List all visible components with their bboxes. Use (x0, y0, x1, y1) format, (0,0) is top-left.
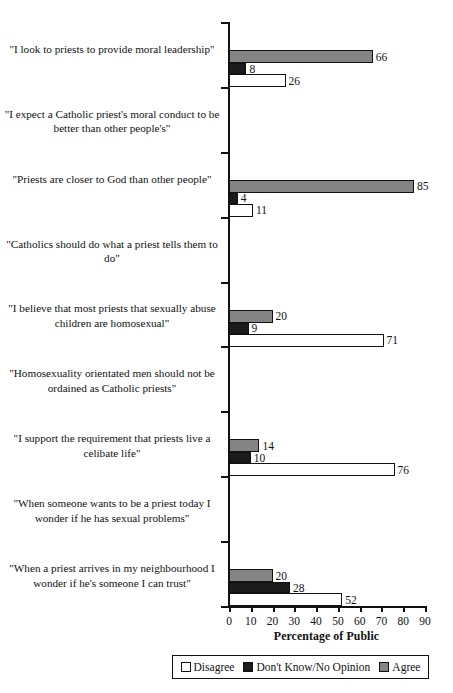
x-axis-tick-label: 90 (413, 614, 437, 628)
chart-legend: Disagree Don't Know/No Opinion Agree (172, 655, 429, 679)
x-axis-tick-label: 60 (348, 614, 372, 628)
x-axis-tick-label: 70 (369, 614, 393, 628)
bar-group: "When someone wants to be a priest today… (0, 476, 453, 541)
bar-value-label: 8 (249, 63, 255, 75)
x-axis-tick (360, 606, 362, 612)
x-axis-line (228, 606, 425, 608)
category-label: "When someone wants to be a priest today… (4, 496, 220, 525)
bar-agree (229, 50, 373, 63)
bar-value-label: 26 (289, 75, 301, 87)
bar-group: "I support the requirement that priests … (0, 411, 453, 476)
x-axis-tick-label: 80 (391, 614, 415, 628)
x-axis-title: Percentage of Public (228, 629, 425, 644)
category-label: "I look to priests to provide moral lead… (4, 42, 220, 57)
legend-label-agree: Agree (392, 661, 420, 673)
bar-group: "I believe that most priests that sexual… (0, 282, 453, 347)
category-label: "Homosexuality orientated men should not… (4, 366, 220, 395)
x-axis-tick-label: 10 (239, 614, 263, 628)
y-axis-tick (221, 606, 229, 608)
plot-area: "I look to priests to provide moral lead… (0, 0, 453, 612)
category-label: "I support the requirement that priests … (4, 431, 220, 460)
bar-value-label: 66 (376, 51, 388, 63)
legend-item-disagree: Disagree (181, 661, 235, 673)
legend-label-disagree: Disagree (194, 661, 235, 673)
x-axis-tick-label: 50 (326, 614, 350, 628)
x-axis-tick (403, 606, 405, 612)
bar-group: "Priests are closer to God than other pe… (0, 152, 453, 217)
x-axis-tick-label: 0 (217, 614, 241, 628)
bar-group: "When a priest arrives in my neighbourho… (0, 541, 453, 606)
x-axis-tick-label: 30 (282, 614, 306, 628)
category-label: "I expect a Catholic priest's moral cond… (4, 107, 220, 136)
category-label: "When a priest arrives in my neighbourho… (4, 561, 220, 590)
legend-swatch-agree-icon (379, 662, 389, 672)
legend-item-dont-know: Don't Know/No Opinion (243, 661, 370, 673)
x-axis-tick-labels: 0102030405060708090 (0, 614, 453, 630)
x-axis-tick (381, 606, 383, 612)
legend-swatch-disagree-icon (181, 662, 191, 672)
bar-chart: "I look to priests to provide moral lead… (0, 0, 453, 693)
bar-group: "Homosexuality orientated men should not… (0, 346, 453, 411)
x-axis-tick (273, 606, 275, 612)
legend-swatch-dont-know-icon (243, 662, 253, 672)
legend-label-dont-know: Don't Know/No Opinion (256, 661, 370, 673)
category-label: "Priests are closer to God than other pe… (4, 172, 220, 187)
bar-group: "Catholics should do what a priest tells… (0, 217, 453, 282)
x-axis-tick-label: 40 (304, 614, 328, 628)
x-axis-tick (316, 606, 318, 612)
bar-group: "I look to priests to provide moral lead… (0, 22, 453, 87)
x-axis-tick (229, 606, 231, 612)
bar-disagree (229, 74, 286, 87)
bar-group: "I expect a Catholic priest's moral cond… (0, 87, 453, 152)
category-label: "Catholics should do what a priest tells… (4, 237, 220, 266)
x-axis-tick (425, 606, 427, 612)
x-axis-tick-label: 20 (261, 614, 285, 628)
bar-dk (229, 63, 246, 74)
x-axis-tick (251, 606, 253, 612)
legend-item-agree: Agree (379, 661, 420, 673)
category-label: "I believe that most priests that sexual… (4, 301, 220, 330)
x-axis-tick (294, 606, 296, 612)
x-axis-tick (338, 606, 340, 612)
